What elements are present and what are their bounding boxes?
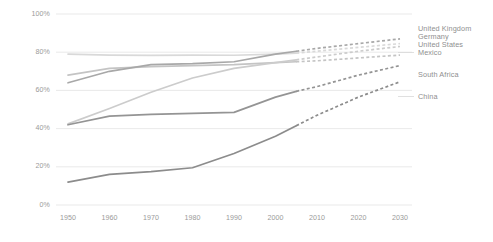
x-axis-tick-label: 2000 (256, 214, 296, 222)
y-axis-tick-label: 40% (10, 124, 50, 132)
y-axis-tick-label: 100% (10, 10, 50, 18)
x-axis-tick-label: 1970 (131, 214, 171, 222)
x-axis-tick-label: 1990 (214, 214, 254, 222)
legend-item-mexico: Mexico (418, 48, 442, 57)
series-lines (68, 39, 400, 182)
y-axis-tick-label: 20% (10, 162, 50, 170)
x-axis-tick-label: 2030 (380, 214, 420, 222)
y-axis-tick-label: 60% (10, 86, 50, 94)
legend-item-china: China (418, 92, 438, 101)
y-axis-tick-label: 80% (10, 48, 50, 56)
x-axis-tick-label: 1980 (173, 214, 213, 222)
gridlines (56, 14, 412, 205)
line-chart: 0%20%40%60%80%100% 195019601970198019902… (0, 0, 493, 242)
x-axis-tick-label: 2020 (339, 214, 379, 222)
y-axis-tick-label: 0% (10, 201, 50, 209)
x-axis-tick-label: 1960 (90, 214, 130, 222)
legend-item-south-africa: South Africa (418, 70, 459, 79)
x-axis-tick-label: 1950 (48, 214, 88, 222)
x-axis-tick-label: 2010 (297, 214, 337, 222)
legend-connector-lines (398, 53, 414, 97)
